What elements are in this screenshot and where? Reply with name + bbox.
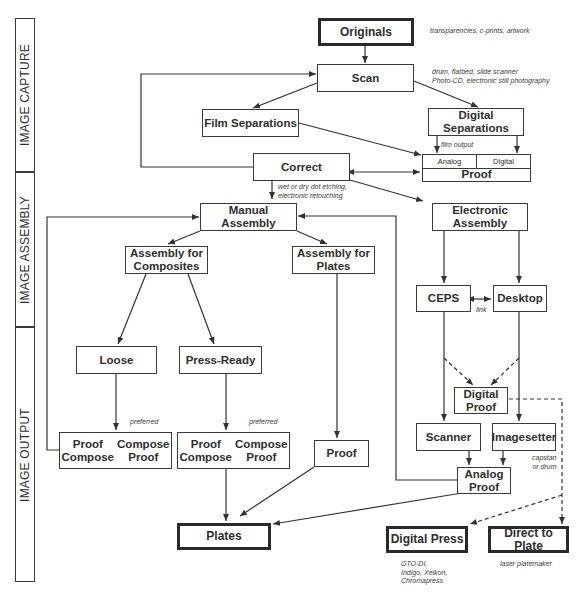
- section-image-capture: IMAGE CAPTURE: [15, 18, 35, 172]
- node-scan: Scan: [317, 64, 414, 92]
- node-correct: Correct: [253, 153, 350, 181]
- node-digital-proof: Digital Proof: [454, 387, 508, 414]
- node-ceps: CEPS: [416, 285, 471, 312]
- note-originals: transparencies, c-prints, artwork: [430, 27, 530, 36]
- note-scan: drum, flatbed, slide scanner Photo-CD, e…: [432, 68, 550, 85]
- section-image-assembly: IMAGE ASSEMBLY: [15, 172, 35, 327]
- note-imagesetter: capstan or drum: [532, 454, 557, 471]
- node-proof-compose-loose: Proof Compose Compose Proof: [59, 432, 172, 469]
- node-scanner: Scanner: [416, 423, 481, 451]
- note-digital-press: GTO-DI, Indigo, Xeikon, Chromapress: [401, 560, 447, 586]
- node-direct-to-plate: Direct to Plate: [488, 526, 569, 553]
- node-proof-plates: Proof: [314, 440, 369, 467]
- node-loose: Loose: [76, 346, 157, 374]
- node-analog-proof: Analog Proof: [457, 467, 511, 494]
- note-film-output: film output: [441, 141, 473, 150]
- compose-proof-right: Compose Proof: [235, 438, 287, 464]
- node-plates: Plates: [177, 523, 271, 550]
- node-imagesetter: Imagesetter: [492, 423, 556, 451]
- node-press-ready: Press-Ready: [179, 346, 262, 374]
- node-proof-compose-press: Proof Compose Compose Proof: [177, 432, 290, 469]
- note-correct: wet or dry dot etching, electronic retou…: [278, 183, 347, 200]
- node-electronic-assembly: Electronic Assembly: [432, 203, 528, 231]
- note-link: link: [476, 306, 487, 315]
- proof-compose-left: Proof Compose: [180, 438, 232, 464]
- section-image-output: IMAGE OUTPUT: [15, 327, 35, 582]
- node-film-separations: Film Separations: [202, 109, 299, 137]
- proof-label: Proof: [423, 167, 530, 181]
- node-manual-assembly: Manual Assembly: [200, 203, 297, 231]
- note-direct-to-plate: laser platemaker: [500, 560, 552, 569]
- node-digital-press: Digital Press: [386, 526, 468, 553]
- compose-proof-right: Compose Proof: [117, 438, 169, 464]
- node-originals: Originals: [318, 18, 414, 46]
- proof-compose-left: Proof Compose: [62, 438, 114, 464]
- node-proof-capture: Analog Digital Proof: [422, 154, 531, 182]
- node-assembly-for-plates: Assembly for Plates: [292, 246, 375, 274]
- node-digital-separations: Digital Separations: [428, 108, 524, 136]
- node-desktop: Desktop: [493, 285, 547, 312]
- note-preferred-loose: preferred: [130, 418, 158, 427]
- note-preferred-press: preferred: [249, 418, 277, 427]
- node-assembly-for-composites: Assembly for Composites: [125, 246, 208, 274]
